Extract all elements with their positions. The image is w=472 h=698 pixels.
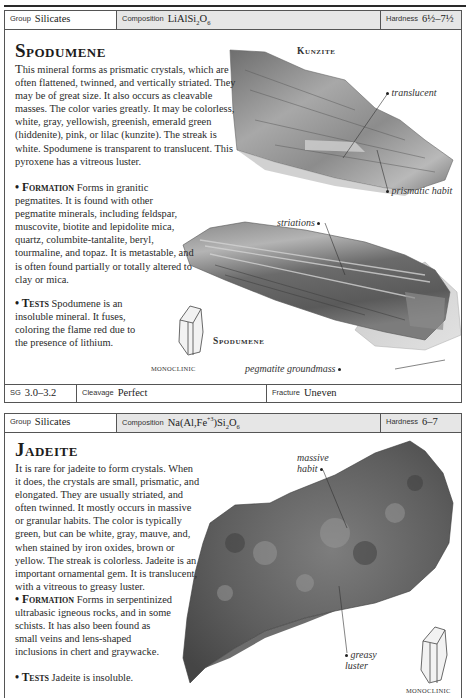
composition-cell: Composition Na(Al,Fe+3)Si2O6 — [117, 414, 381, 432]
description-dropcap: T — [15, 62, 23, 76]
tests-heading: • Tests — [15, 297, 49, 309]
hardness-cell: Hardness 6–7 — [381, 414, 461, 432]
jadeite-title: Jadeite — [15, 439, 78, 461]
callout-pegmatite-groundmass: pegmatite groundmass — [245, 363, 341, 374]
group-value: Silicates — [35, 416, 71, 427]
crystal-system-label: MONOCLINIC — [406, 687, 451, 694]
tests-text: Jadeite is insoluble. — [52, 672, 134, 683]
spodumene-header-row: Group Silicates Composition LiAlSi2O6 Ha… — [4, 10, 462, 30]
callout-dot — [338, 368, 341, 371]
hardness-cell: Hardness 6½–7½ — [381, 11, 461, 29]
kunzite-specimen — [230, 50, 453, 196]
group-cell: Group Silicates — [5, 11, 117, 29]
tests-heading: • Tests — [15, 671, 49, 683]
callout-greasy-luster: greasy luster — [345, 649, 389, 671]
group-cell: Group Silicates — [5, 414, 117, 432]
description-text: t is rare for jadeite to form crystals. … — [15, 463, 199, 592]
description-text: his mineral forms as prismatic crystals,… — [15, 64, 236, 167]
spodumene-description: This mineral forms as prismatic crystals… — [15, 63, 240, 168]
hardness-value: 6–7 — [422, 416, 438, 427]
jadeite-specimen — [183, 441, 453, 683]
spodumene-title: Spodumene — [15, 40, 106, 62]
callout-massive-habit: massive habit — [297, 452, 337, 474]
callout-prismatic-habit: prismatic habit — [386, 185, 452, 196]
fracture-value: Uneven — [304, 387, 337, 398]
sg-cell: SG 3.0–3.2 — [5, 385, 77, 402]
monoclinic-crystal-icon — [421, 627, 447, 683]
group-label: Group — [10, 417, 31, 426]
group-label: Group — [10, 14, 31, 23]
cleavage-cell: Cleavage Perfect — [77, 385, 267, 402]
crystal-system-label: MONOCLINIC — [151, 365, 196, 372]
hardness-value: 6½–7½ — [422, 13, 454, 24]
jadeite-description: It is rare for jadeite to form crystals.… — [15, 462, 200, 593]
top-rule — [4, 5, 466, 7]
composition-cell: Composition LiAlSi2O6 — [117, 11, 381, 29]
jadeite-tests: • Tests Jadeite is insoluble. — [15, 671, 185, 684]
sg-label: SG — [10, 388, 21, 397]
spodumene-formation: • Formation Forms in granitic pegmatites… — [15, 181, 195, 286]
spodumene-tests: • Tests Spodumene is an insoluble minera… — [15, 297, 140, 349]
jadeite-panel: Jadeite It is rare for jadeite to form c… — [4, 433, 462, 698]
callout-striations: striations — [277, 217, 320, 228]
formation-heading: • Formation — [15, 593, 74, 605]
callout-translucent: translucent — [386, 87, 437, 98]
cleavage-value: Perfect — [118, 387, 148, 398]
spodumene-caption: Spodumene — [213, 336, 265, 346]
composition-label: Composition — [122, 418, 164, 427]
hardness-label: Hardness — [386, 14, 418, 23]
callout-dot — [386, 92, 389, 95]
fracture-label: Fracture — [272, 388, 300, 397]
spodumene-panel: Spodumene This mineral forms as prismati… — [4, 30, 462, 384]
sg-value: 3.0–3.2 — [25, 387, 57, 398]
composition-label: Composition — [122, 14, 164, 23]
jadeite-header-row: Group Silicates Composition Na(Al,Fe+3)S… — [4, 413, 462, 433]
callout-dot — [320, 468, 323, 471]
monoclinic-crystal-icon — [179, 306, 203, 355]
callout-dot — [317, 222, 320, 225]
kunzite-caption: Kunzite — [297, 46, 335, 56]
formation-text: Forms in granitic pegmatites. It is foun… — [15, 182, 194, 285]
formation-heading: • Formation — [15, 181, 74, 193]
spodumene-footer-row: SG 3.0–3.2 Cleavage Perfect Fracture Une… — [4, 384, 462, 403]
cleavage-label: Cleavage — [82, 388, 114, 397]
callout-dot — [386, 190, 389, 193]
spodumene-specimen — [183, 222, 461, 350]
hardness-label: Hardness — [386, 417, 418, 426]
composition-value: LiAlSi2O6 — [168, 13, 211, 26]
group-value: Silicates — [35, 13, 71, 24]
jadeite-formation: • Formation Forms in serpentinized ultra… — [15, 593, 175, 658]
callout-dot — [345, 654, 348, 657]
fracture-cell: Fracture Uneven — [267, 385, 461, 402]
composition-value: Na(Al,Fe+3)Si2O6 — [168, 416, 240, 430]
